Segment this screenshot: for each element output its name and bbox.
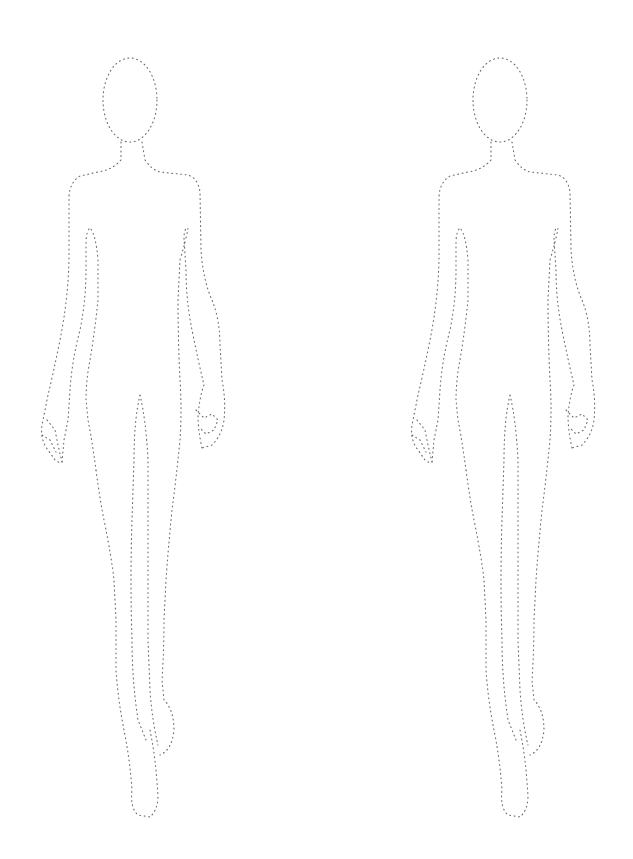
croquis-figure-right: [412, 58, 595, 817]
croquis-figure-left: [42, 58, 225, 817]
croquis-canvas: [0, 0, 633, 859]
